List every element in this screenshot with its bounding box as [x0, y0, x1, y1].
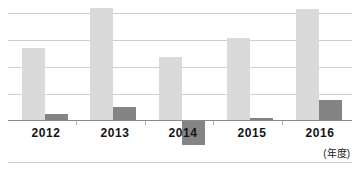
x-axis-label-2012: 2012	[12, 126, 80, 140]
axis-tick-3	[213, 121, 214, 125]
axis-tick-1	[76, 121, 77, 125]
bar-dark-2013	[113, 107, 136, 120]
x-axis-label-2016: 2016	[286, 126, 354, 140]
bottom-rule	[8, 162, 352, 163]
bar-light-2015	[227, 38, 250, 120]
bar-light-2012	[22, 48, 45, 120]
x-axis-label-2013: 2013	[81, 126, 149, 140]
x-axis-unit-label: (年度)	[323, 148, 350, 160]
axis-tick-2	[145, 121, 146, 125]
bar-chart: 2012 2013 2014 2015 2016 (年度)	[0, 0, 359, 169]
bar-light-2016	[296, 9, 319, 120]
zero-axis-line	[8, 120, 352, 121]
axis-tick-4	[282, 121, 283, 125]
bar-light-2014	[159, 57, 182, 120]
bar-dark-2016	[319, 100, 342, 120]
plot-area	[0, 0, 359, 169]
x-axis-label-2014: 2014	[149, 126, 217, 140]
bar-light-2013	[90, 8, 113, 120]
x-axis-label-2015: 2015	[218, 126, 286, 140]
